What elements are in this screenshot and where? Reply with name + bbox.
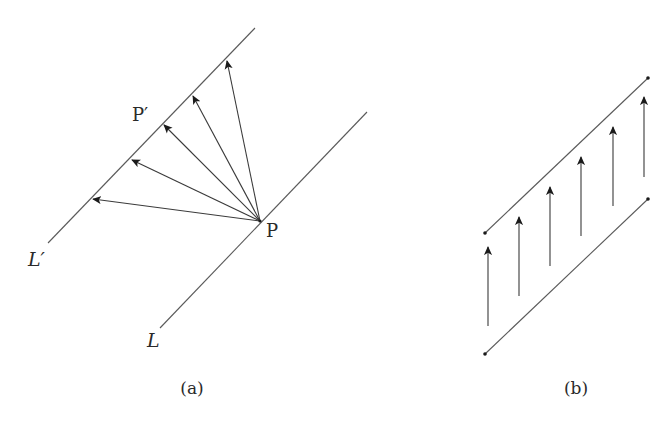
label-L: L bbox=[146, 329, 160, 351]
parallel-lines bbox=[485, 78, 648, 354]
endpoint-dot bbox=[646, 197, 650, 201]
label-point-p-prime: P′ bbox=[132, 104, 148, 125]
line-L-prime bbox=[48, 28, 255, 243]
point-p-dot bbox=[258, 219, 261, 222]
vector-arrow bbox=[93, 199, 260, 221]
vector-arrow bbox=[227, 61, 260, 221]
arrows-from-p bbox=[93, 61, 262, 223]
endpoint-dots bbox=[483, 76, 650, 356]
vector-arrow bbox=[164, 125, 260, 221]
panel-b-caption: (b) bbox=[564, 378, 588, 398]
vector-arrow bbox=[193, 96, 260, 221]
line-lower bbox=[485, 199, 648, 354]
label-point-p: P bbox=[266, 220, 278, 241]
vertical-arrows bbox=[488, 97, 644, 326]
endpoint-dot bbox=[646, 76, 650, 80]
label-group: L′LPP′ bbox=[27, 104, 278, 351]
endpoint-dot bbox=[483, 352, 487, 356]
line-L bbox=[160, 112, 367, 328]
parallel-lines-diagram: L′LPP′ (a) (b) bbox=[0, 0, 672, 427]
panel-b: (b) bbox=[483, 76, 650, 398]
endpoint-dot bbox=[483, 231, 487, 235]
panel-a-caption: (a) bbox=[180, 378, 203, 398]
label-L-prime: L′ bbox=[27, 248, 46, 270]
panel-a: L′LPP′ (a) bbox=[27, 28, 367, 398]
line-group bbox=[48, 28, 367, 328]
line-upper bbox=[485, 78, 648, 233]
vector-arrow bbox=[132, 160, 260, 221]
